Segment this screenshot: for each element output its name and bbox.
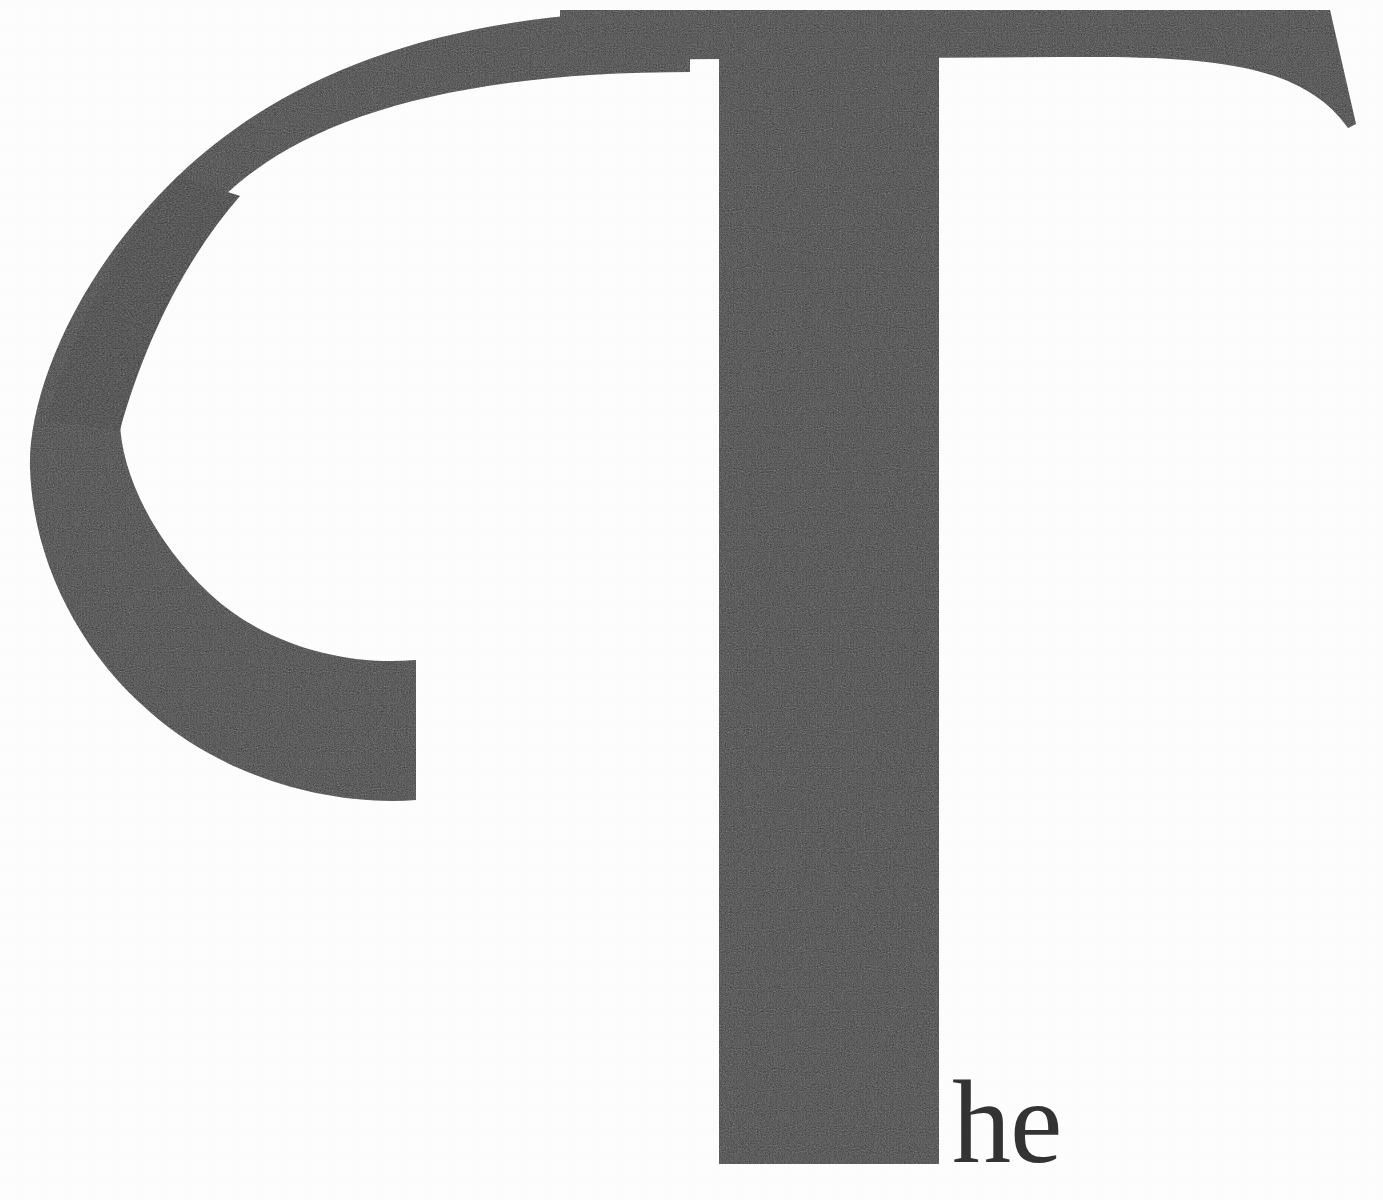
capital-t-stem	[719, 56, 939, 1164]
page-canvas: he	[0, 0, 1383, 1200]
dropcap-continuation-text: he	[952, 1064, 1061, 1182]
dropcap-artwork	[0, 0, 1383, 1200]
